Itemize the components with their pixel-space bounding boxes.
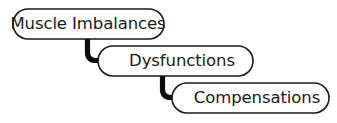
node-label-dysfunctions: Dysfunctions xyxy=(129,51,235,70)
flow-diagram: Muscle Imbalances Dysfunctions Compensat… xyxy=(0,0,337,123)
flow-diagram-canvas: Muscle Imbalances Dysfunctions Compensat… xyxy=(0,0,337,123)
node-dysfunctions[interactable]: Dysfunctions xyxy=(98,46,253,76)
node-label-muscle-imbalances: Muscle Imbalances xyxy=(10,14,165,33)
node-muscle-imbalances[interactable]: Muscle Imbalances xyxy=(10,9,165,39)
node-compensations[interactable]: Compensations xyxy=(172,83,329,113)
node-label-compensations: Compensations xyxy=(194,88,320,107)
